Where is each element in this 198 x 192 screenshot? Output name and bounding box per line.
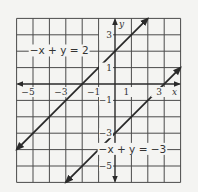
x-tick-label: 3	[156, 87, 162, 97]
coordinate-plane: −5−3−11331−1−3−5xy −x + y = 2−x + y = −3	[0, 0, 198, 192]
y-tick-label: −1	[99, 95, 112, 105]
x-axis-label: x	[172, 87, 177, 97]
x-tick-label: −3	[54, 87, 68, 97]
x-tick-label: 1	[124, 87, 130, 97]
equation-label-2: −x + y = −3	[99, 143, 167, 155]
y-axis-label: y	[118, 19, 125, 29]
line-series-2	[66, 68, 181, 183]
equation-label-1: −x + y = 2	[30, 44, 89, 56]
y-tick-label: −3	[99, 128, 113, 138]
y-tick-label: −5	[99, 161, 113, 171]
y-tick-label: 1	[106, 63, 112, 73]
y-tick-label: 3	[106, 30, 112, 40]
x-tick-label: −5	[21, 87, 35, 97]
